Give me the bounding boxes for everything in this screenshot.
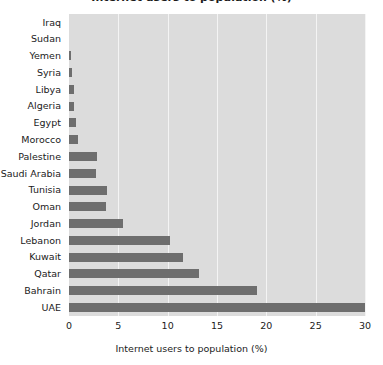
bar-morocco [69,135,78,144]
bar-row [69,198,365,215]
chart-title-text: Internet users to population (%) [91,0,291,4]
x-axis-title: Internet users to population (%) [0,343,383,354]
bar-libya [69,85,74,94]
x-tick-30: 30 [359,320,371,331]
y-label-palestine: Palestine [0,148,65,165]
x-tick-0: 0 [66,320,72,331]
y-label-text: Egypt [34,118,61,128]
bar-yemen [69,51,71,60]
bar-bahrain [69,286,257,295]
y-label-text: Morocco [21,135,61,145]
y-label-tunisia: Tunisia [0,182,65,199]
bar-tunisia [69,186,107,195]
bar-qatar [69,269,199,278]
bar-row [69,232,365,249]
bar-row [69,299,365,316]
bar-row [69,265,365,282]
y-label-text: Kuwait [29,252,61,262]
y-label-text: Lebanon [20,236,61,246]
y-label-egypt: Egypt [0,115,65,132]
y-axis-category-labels: IraqSudanYemenSyriaLibyaAlgeriaEgyptMoro… [0,14,65,316]
y-label-algeria: Algeria [0,98,65,115]
bar-syria [69,68,72,77]
y-label-morocco: Morocco [0,131,65,148]
bar-row [69,64,365,81]
y-label-text: Bahrain [24,286,61,296]
y-label-text: Tunisia [29,185,61,195]
bar-row [69,215,365,232]
y-label-sudan: Sudan [0,31,65,48]
bar-row [69,115,365,132]
clipped-chart-title: Internet users to population (%) [0,0,383,8]
x-tick-10: 10 [162,320,174,331]
y-label-text: Palestine [18,152,61,162]
y-label-text: Jordan [31,219,61,229]
bar-row [69,98,365,115]
y-label-oman: Oman [0,198,65,215]
gridline-30 [365,14,366,316]
bar-row [69,282,365,299]
y-label-lebanon: Lebanon [0,232,65,249]
y-label-text: Oman [32,202,61,212]
plot-area [69,14,365,316]
y-label-jordan: Jordan [0,215,65,232]
bar-chart: Internet users to population (%) IraqSud… [0,0,383,365]
bar-row [69,31,365,48]
bar-row [69,182,365,199]
y-label-syria: Syria [0,64,65,81]
y-label-text: Syria [37,68,61,78]
x-tick-20: 20 [260,320,272,331]
y-label-text: Saudi Arabia [1,169,61,179]
bar-uae [69,303,365,312]
bar-algeria [69,102,74,111]
y-label-bahrain: Bahrain [0,282,65,299]
x-tick-25: 25 [310,320,322,331]
bar-row [69,249,365,266]
bar-series [69,14,365,316]
y-label-text: Sudan [31,34,61,44]
x-axis-tick-labels: 051015202530 [0,320,383,336]
y-label-text: UAE [42,303,61,313]
bar-jordan [69,219,123,228]
y-label-uae: UAE [0,299,65,316]
bar-row [69,81,365,98]
bar-egypt [69,118,76,127]
bar-palestine [69,152,97,161]
x-tick-5: 5 [115,320,121,331]
y-label-iraq: Iraq [0,14,65,31]
y-label-text: Algeria [28,101,61,111]
bar-saudi-arabia [69,169,96,178]
y-label-text: Qatar [34,269,61,279]
y-label-kuwait: Kuwait [0,249,65,266]
bar-row [69,14,365,31]
y-label-saudi-arabia: Saudi Arabia [0,165,65,182]
y-label-text: Iraq [42,18,61,28]
bar-lebanon [69,236,170,245]
bar-oman [69,202,106,211]
y-label-text: Yemen [29,51,61,61]
y-label-qatar: Qatar [0,265,65,282]
bar-kuwait [69,253,183,262]
bar-row [69,165,365,182]
bar-row [69,48,365,65]
y-label-text: Libya [36,85,61,95]
y-label-yemen: Yemen [0,48,65,65]
bar-row [69,148,365,165]
bar-row [69,131,365,148]
y-label-libya: Libya [0,81,65,98]
x-tick-15: 15 [211,320,223,331]
